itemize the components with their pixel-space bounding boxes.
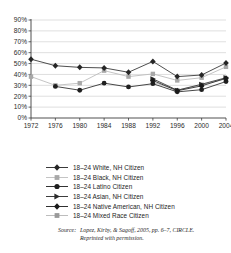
x-axis-tick-label: 1984	[97, 122, 112, 129]
legend-item-black: 18–24 Black, NH Citizen	[44, 173, 224, 183]
legend-item-latino: 18–24 Latino Citizen	[44, 182, 224, 192]
legend-label: 18–24 Latino Citizen	[70, 183, 132, 190]
source-label: Source:	[58, 227, 80, 235]
line-chart-plot: 0%10%20%30%40%50%60%70%80%90%19721976198…	[0, 14, 231, 146]
source-line-1: Lopez, Kirby, & Sagoff, 2005, pp. 6–7, C…	[80, 227, 194, 235]
x-axis-tick-label: 1992	[146, 122, 161, 129]
legend-item-native-american: 18–24 Native American, NH Citizen	[44, 201, 224, 211]
square-marker-icon	[44, 211, 70, 220]
square-marker-icon	[44, 173, 70, 182]
legend-item-mixed-race: 18–24 Mixed Race Citizen	[44, 211, 224, 221]
diamond-marker-icon	[44, 163, 70, 172]
chart-canvas: 0%10%20%30%40%50%60%70%80%90%19721976198…	[0, 14, 231, 146]
x-axis-tick-label: 1996	[170, 122, 185, 129]
data-point-marker	[102, 81, 107, 86]
legend-item-white: 18–24 White, NH Citizen	[44, 163, 224, 173]
y-axis-tick-label: 20%	[14, 93, 27, 100]
y-axis-tick-label: 80%	[14, 27, 27, 34]
legend-label: 18–24 Black, NH Citizen	[70, 174, 143, 181]
y-axis-tick-label: 60%	[14, 49, 27, 56]
source-line-2: Reprinted with permission.	[58, 235, 231, 243]
y-axis-tick-label: 10%	[14, 103, 27, 110]
legend-label: 18–24 Mixed Race Citizen	[70, 212, 149, 219]
legend-label: 18–24 Asian, NH Citizen	[70, 193, 143, 200]
diamond-marker-icon	[44, 202, 70, 211]
x-axis-tick-label: 1972	[24, 122, 39, 129]
y-axis-tick-label: 90%	[14, 16, 27, 23]
data-point-marker	[53, 84, 58, 89]
legend-label: 18–24 Native American, NH Citizen	[70, 203, 175, 210]
y-axis-tick-label: 50%	[14, 60, 27, 67]
y-axis-tick-label: 0%	[17, 114, 27, 121]
y-axis-tick-label: 40%	[14, 71, 27, 78]
legend-label: 18–24 White, NH Citizen	[70, 164, 144, 171]
x-axis-tick-label: 2000	[194, 122, 209, 129]
legend-item-asian: 18–24 Asian, NH Citizen	[44, 192, 224, 202]
x-axis-tick-label: 2004	[219, 122, 231, 129]
series-line	[153, 78, 226, 91]
data-point-marker	[126, 85, 131, 90]
data-point-marker	[78, 81, 82, 85]
data-point-marker	[151, 72, 155, 76]
data-point-marker	[77, 88, 82, 93]
data-point-marker	[77, 64, 83, 70]
x-axis-tick-label: 1980	[72, 122, 87, 129]
chart-figure: 0%10%20%30%40%50%60%70%80%90%19721976198…	[0, 0, 231, 253]
chart-legend: 18–24 White, NH Citizen 18–24 Black, NH …	[44, 163, 224, 221]
x-axis-tick-label: 1988	[121, 122, 136, 129]
y-axis-tick-label: 70%	[14, 38, 27, 45]
data-point-marker	[29, 74, 33, 78]
x-axis-tick-label: 1976	[48, 122, 63, 129]
triangle-marker-icon	[44, 192, 70, 201]
data-point-marker	[28, 56, 34, 62]
circle-marker-icon	[44, 182, 70, 191]
y-axis-tick-label: 30%	[14, 82, 27, 89]
source-note: Source:Lopez, Kirby, & Sagoff, 2005, pp.…	[58, 227, 231, 242]
